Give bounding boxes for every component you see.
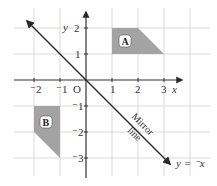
shape-a-label: A (122, 36, 130, 47)
mirror-equation: y = ⁻x (175, 157, 205, 169)
y-tick-label: ⁻2 (72, 126, 84, 138)
y-axis-label: y (62, 21, 68, 33)
x-tick-label: ⁻1 (56, 83, 68, 95)
x-tick-label: 1 (110, 83, 116, 95)
shape-b-label: B (43, 117, 50, 128)
y-tick-label: 2 (74, 22, 80, 34)
y-tick-label: 1 (75, 48, 81, 60)
reflection-diagram: ⁻2 ⁻1 O 1 2 3 x y 2 1 ⁻1 ⁻2 ⁻3 A B Mirro… (0, 0, 217, 186)
shape-b (34, 106, 60, 158)
x-tick-label: ⁻2 (30, 83, 42, 95)
x-tick-label: 2 (135, 83, 141, 95)
x-tick-label: 3 (161, 83, 167, 95)
x-axis-label: x (171, 83, 177, 95)
y-tick-label: ⁻1 (72, 100, 84, 112)
origin-label: O (73, 83, 81, 95)
y-tick-label: ⁻3 (72, 152, 84, 164)
